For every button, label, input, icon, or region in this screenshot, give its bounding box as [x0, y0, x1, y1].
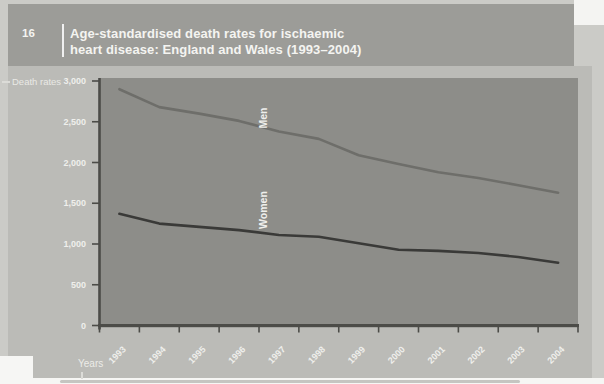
series-label-women: Women: [257, 191, 269, 229]
y-tick-label: 2,000: [63, 158, 86, 168]
plot-area: [100, 78, 579, 328]
x-tick-label: 1996: [226, 344, 247, 365]
x-tick-label: 2001: [426, 344, 447, 365]
x-tick-label: 1993: [107, 344, 128, 365]
x-tick-label: 1995: [186, 344, 207, 365]
x-tick-label: 1999: [346, 344, 367, 365]
y-tick-label: 3,000: [63, 76, 86, 86]
series-label-men: Men: [257, 108, 269, 129]
line-chart: 05001,0001,5002,0002,5003,00019931994199…: [0, 0, 604, 384]
x-tick-label: 2003: [505, 344, 526, 365]
x-tick-label: 1997: [266, 344, 287, 365]
x-tick-label: 1994: [146, 344, 167, 365]
x-tick-label: 1998: [306, 344, 327, 365]
x-tick-label: 2004: [545, 344, 566, 365]
x-tick-label: 2000: [386, 344, 407, 365]
y-tick-label: 0: [81, 321, 86, 331]
y-tick-label: 500: [71, 280, 86, 290]
y-tick-label: 1,000: [63, 239, 86, 249]
x-tick-label: 2002: [465, 344, 486, 365]
y-tick-label: 1,500: [63, 198, 86, 208]
scanned-page: 16 Age-standardised death rates for isch…: [0, 0, 604, 384]
y-tick-label: 2,500: [63, 117, 86, 127]
